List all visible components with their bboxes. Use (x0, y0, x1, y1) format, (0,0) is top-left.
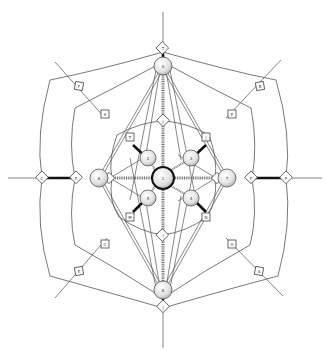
diamond-right-outer[interactable]: P (280, 171, 293, 184)
node-top[interactable]: 0 (154, 57, 172, 75)
box-inner-se[interactable]: N (202, 213, 210, 221)
svg-text:B: B (259, 84, 262, 89)
box-mid-nw[interactable]: S (101, 110, 109, 118)
svg-text:J: J (204, 135, 206, 140)
node-right[interactable]: 7 (218, 169, 236, 187)
node-lower-left[interactable]: 5 (140, 190, 156, 206)
diamond-bottom-inner[interactable]: I (156, 229, 169, 242)
spider-web-diagram: F B E A S E C H T J M N T J I J C E F P … (0, 0, 326, 351)
diamond-left-inner[interactable]: E (70, 171, 83, 184)
box-outer-sw[interactable]: E (74, 266, 83, 275)
diamond-left-outer[interactable]: C (36, 171, 49, 184)
svg-text:N: N (205, 215, 208, 220)
node-upper-left[interactable]: 2 (140, 150, 156, 166)
box-outer-se[interactable]: A (254, 266, 263, 275)
svg-text:C: C (104, 242, 107, 247)
svg-text:H: H (230, 242, 233, 247)
svg-text:C: C (41, 176, 44, 181)
box-mid-se[interactable]: H (228, 240, 236, 248)
svg-text:5: 5 (147, 196, 150, 201)
svg-text:0: 0 (162, 64, 165, 69)
svg-text:J: J (161, 305, 163, 310)
box-outer-nw[interactable]: F (74, 81, 83, 90)
diamond-top-outer[interactable]: T (156, 42, 169, 55)
svg-text:6: 6 (98, 176, 101, 181)
node-upper-right[interactable]: 3 (183, 150, 199, 166)
node-bottom[interactable]: 8 (154, 281, 172, 299)
box-inner-ne[interactable]: J (202, 133, 210, 141)
svg-text:S: S (104, 112, 107, 117)
diamond-top-inner[interactable]: J (157, 114, 170, 127)
svg-text:3: 3 (190, 156, 193, 161)
box-inner-sw[interactable]: M (126, 213, 134, 221)
svg-text:7: 7 (226, 176, 229, 181)
box-outer-ne[interactable]: B (255, 81, 264, 90)
svg-text:T: T (161, 46, 165, 51)
svg-text:I: I (162, 233, 163, 238)
svg-text:8: 8 (162, 288, 165, 293)
box-inner-nw[interactable]: T (126, 133, 134, 141)
diamond-right-inner[interactable]: F (245, 171, 258, 184)
node-lower-right[interactable]: 4 (183, 190, 199, 206)
hub-node[interactable]: 1 (152, 167, 174, 189)
svg-text:2: 2 (147, 156, 150, 161)
svg-text:A: A (258, 269, 261, 274)
svg-text:T: T (128, 135, 132, 140)
box-mid-ne[interactable]: E (228, 110, 236, 118)
svg-text:1: 1 (162, 176, 165, 181)
box-mid-sw[interactable]: C (101, 240, 109, 248)
svg-text:J: J (161, 119, 163, 124)
diamond-bottom-outer[interactable]: J (157, 300, 170, 313)
svg-text:4: 4 (190, 196, 193, 201)
svg-text:M: M (128, 215, 132, 220)
node-left[interactable]: 6 (90, 169, 108, 187)
